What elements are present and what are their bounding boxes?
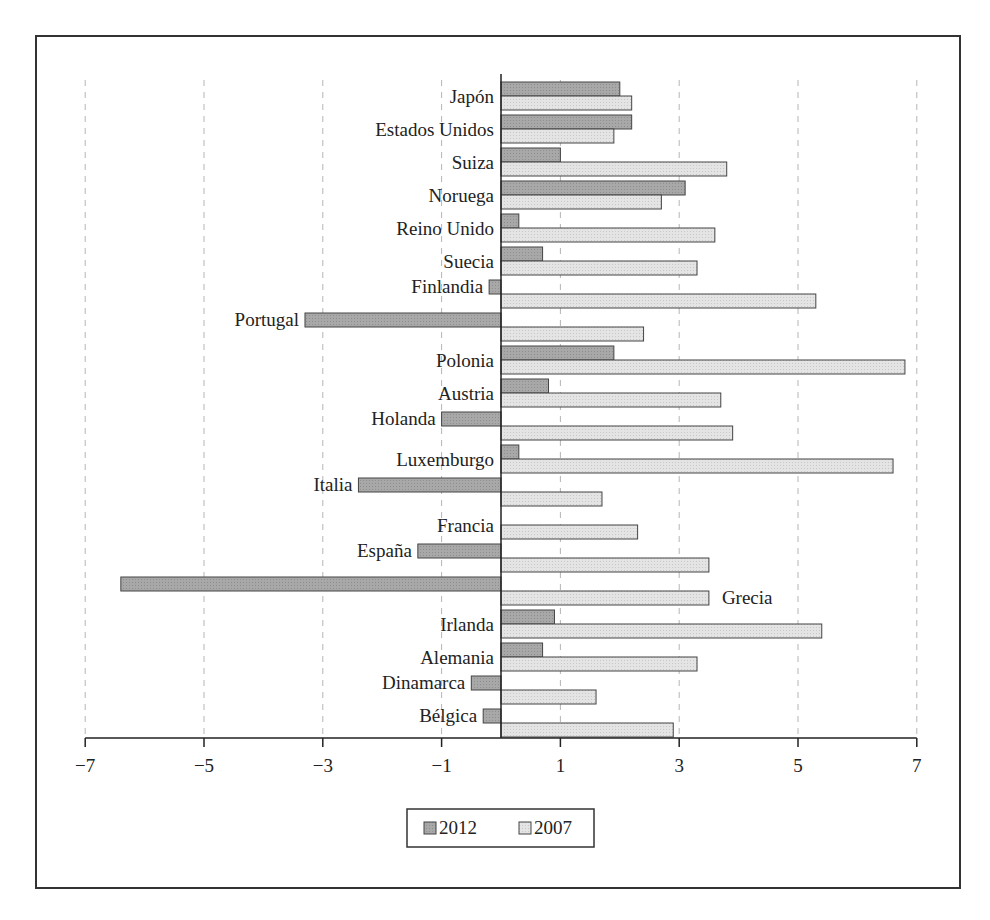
x-tick-label: −3 [313,755,333,776]
bar-2007 [501,426,733,440]
bar-2012 [305,313,501,327]
bar-2007 [501,195,661,209]
legend: 2012 2007 [407,809,594,847]
x-tick-label: −7 [75,755,95,776]
x-axis: −7−5−3−11357 [75,738,921,776]
bar-2007 [501,492,602,506]
bar-2007 [501,525,638,539]
category-label: Reino Unido [396,218,494,239]
bar-2007 [501,261,697,275]
bar-2012 [483,709,501,723]
category-label: Holanda [371,408,436,429]
bar-2007 [501,96,632,110]
category-label: Dinamarca [382,672,466,693]
category-label: Irlanda [440,614,494,635]
bar-2007 [501,162,727,176]
bar-2012 [501,247,543,261]
bar-2012 [489,280,501,294]
legend-swatch-2012 [424,822,436,834]
category-label: Italia [313,474,353,495]
category-label: Austria [438,383,495,404]
x-tick-label: −1 [431,755,451,776]
x-tick-label: 7 [912,755,922,776]
x-tick-label: 5 [793,755,803,776]
x-tick-label: −5 [194,755,214,776]
bar-2012 [501,445,519,459]
bar-2007 [501,228,715,242]
bar-2012 [501,82,620,96]
category-label: Estados Unidos [375,119,494,140]
bar-2007 [501,360,905,374]
x-tick-label: 1 [556,755,566,776]
bar-2012 [471,676,501,690]
bar-2012 [501,346,614,360]
category-label: Suiza [452,152,495,173]
category-label: Finlandia [411,276,483,297]
bar-2007 [501,558,709,572]
bar-2012 [121,577,501,591]
bar-chart: JapónEstados UnidosSuizaNoruegaReino Uni… [0,0,990,920]
category-label: Portugal [235,309,299,330]
category-label: España [357,540,412,561]
x-tick-label: 3 [674,755,684,776]
bar-2007 [501,723,673,737]
bar-2012 [501,643,543,657]
bar-2007 [501,624,822,638]
category-label: Polonia [436,350,495,371]
category-label: Grecia [722,587,773,608]
bars-group [121,82,905,737]
bar-2007 [501,591,709,605]
bar-2007 [501,690,596,704]
bar-2012 [418,544,501,558]
category-label: Noruega [429,185,495,206]
legend-label-2012: 2012 [439,817,477,838]
bar-2012 [442,412,501,426]
bar-2012 [358,478,501,492]
bar-2007 [501,393,721,407]
bar-2007 [501,327,644,341]
bar-2012 [501,610,554,624]
bar-2012 [501,148,560,162]
category-label: Bélgica [419,705,478,726]
bar-2012 [501,181,685,195]
legend-label-2007: 2007 [534,817,572,838]
category-label: Francia [437,515,495,536]
category-label: Japón [450,86,495,107]
legend-swatch-2007 [519,822,531,834]
bar-2007 [501,129,614,143]
category-label: Suecia [443,251,494,272]
bar-2012 [501,379,549,393]
bar-2007 [501,294,816,308]
category-label: Alemania [420,647,494,668]
bar-2012 [501,214,519,228]
bar-2007 [501,657,697,671]
bar-2007 [501,459,893,473]
bar-2012 [501,115,632,129]
category-label: Luxemburgo [396,449,494,470]
